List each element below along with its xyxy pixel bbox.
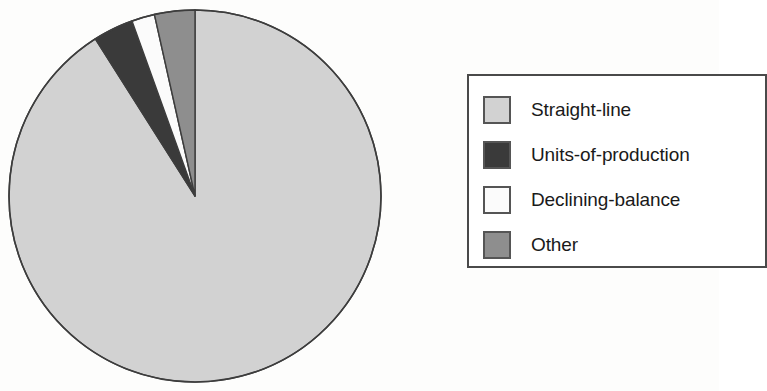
pie-chart-plot-area: [0, 0, 400, 391]
pie-slice-group: [9, 10, 381, 382]
legend-item-straight-line[interactable]: Straight-line: [483, 87, 763, 132]
pie-chart-svg: [0, 0, 400, 391]
legend-swatch-units-of-production: [483, 141, 511, 169]
legend-label-units-of-production: Units-of-production: [531, 144, 690, 166]
legend-swatch-other: [483, 231, 511, 259]
legend-swatch-declining-balance: [483, 186, 511, 214]
legend-item-declining-balance[interactable]: Declining-balance: [483, 177, 763, 222]
legend-item-other[interactable]: Other: [483, 222, 763, 267]
legend-item-units-of-production[interactable]: Units-of-production: [483, 132, 763, 177]
legend-item-list: Straight-line Units-of-production Declin…: [483, 87, 763, 267]
legend-label-other: Other: [531, 234, 578, 256]
legend: Straight-line Units-of-production Declin…: [467, 74, 767, 268]
legend-label-straight-line: Straight-line: [531, 99, 631, 121]
legend-label-declining-balance: Declining-balance: [531, 189, 680, 211]
legend-swatch-straight-line: [483, 96, 511, 124]
